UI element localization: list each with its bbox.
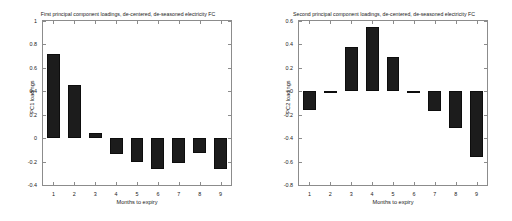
y-tick-mark bbox=[484, 21, 487, 22]
bars-container-pc2 bbox=[299, 21, 487, 185]
y-tick-mark bbox=[43, 115, 46, 116]
y-tick-label: 0.4 bbox=[30, 88, 38, 94]
bar bbox=[428, 91, 441, 110]
bar bbox=[47, 54, 60, 138]
x-tick-mark bbox=[158, 21, 159, 24]
y-tick-label: 0 bbox=[290, 88, 293, 94]
y-tick-mark bbox=[299, 162, 302, 163]
y-tick-label: -0.4 bbox=[28, 182, 37, 188]
x-tick-mark bbox=[74, 21, 75, 24]
x-tick-label: 2 bbox=[329, 191, 332, 197]
bar bbox=[387, 57, 400, 91]
bar bbox=[110, 138, 123, 154]
bar bbox=[407, 91, 420, 93]
y-tick-mark bbox=[484, 68, 487, 69]
y-axis-label-pc1: PC1 loadings bbox=[29, 67, 35, 127]
plot-area-pc2: 0.60.40.20-0.2-0.4-0.6-0.8123456789 bbox=[298, 20, 488, 186]
x-tick-mark bbox=[351, 21, 352, 24]
y-tick-mark bbox=[43, 44, 46, 45]
x-tick-mark bbox=[477, 182, 478, 185]
y-tick-mark bbox=[43, 162, 46, 163]
bar bbox=[214, 138, 227, 168]
x-tick-label: 7 bbox=[433, 191, 436, 197]
y-tick-mark bbox=[43, 138, 46, 139]
y-tick-label: 0.6 bbox=[30, 65, 38, 71]
y-tick-label: 1 bbox=[34, 18, 37, 24]
x-tick-label: 5 bbox=[392, 191, 395, 197]
y-tick-mark bbox=[228, 115, 231, 116]
y-tick-mark bbox=[299, 44, 302, 45]
bar bbox=[151, 138, 164, 169]
x-tick-mark bbox=[53, 21, 54, 24]
y-tick-mark bbox=[299, 185, 302, 186]
bar bbox=[89, 133, 102, 138]
x-tick-mark bbox=[74, 182, 75, 185]
y-tick-label: -0.6 bbox=[284, 159, 293, 165]
figure-canvas: First principal component loadings, de-c… bbox=[0, 0, 512, 221]
y-tick-mark bbox=[228, 21, 231, 22]
chart-panel-pc2: Second principal component loadings, de-… bbox=[256, 0, 512, 221]
bar bbox=[68, 85, 81, 138]
x-tick-mark bbox=[137, 21, 138, 24]
x-tick-label: 5 bbox=[136, 191, 139, 197]
y-tick-label: 0.2 bbox=[286, 65, 294, 71]
x-tick-mark bbox=[414, 182, 415, 185]
x-tick-mark bbox=[456, 21, 457, 24]
y-tick-mark bbox=[484, 91, 487, 92]
y-tick-mark bbox=[484, 44, 487, 45]
bars-container-pc1 bbox=[43, 21, 231, 185]
y-tick-mark bbox=[43, 21, 46, 22]
y-tick-mark bbox=[484, 162, 487, 163]
bar bbox=[324, 91, 337, 93]
x-tick-mark bbox=[158, 182, 159, 185]
y-tick-mark bbox=[299, 21, 302, 22]
bar bbox=[449, 91, 462, 128]
y-tick-label: 0.2 bbox=[30, 112, 38, 118]
x-tick-label: 3 bbox=[350, 191, 353, 197]
y-tick-mark bbox=[228, 138, 231, 139]
y-tick-mark bbox=[484, 185, 487, 186]
x-tick-label: 8 bbox=[454, 191, 457, 197]
x-tick-mark bbox=[309, 182, 310, 185]
bar bbox=[172, 138, 185, 163]
x-tick-mark bbox=[309, 21, 310, 24]
chart-panel-pc1: First principal component loadings, de-c… bbox=[0, 0, 256, 221]
x-tick-mark bbox=[179, 21, 180, 24]
x-tick-mark bbox=[200, 21, 201, 24]
x-tick-label: 4 bbox=[115, 191, 118, 197]
chart-title-pc1: First principal component loadings, de-c… bbox=[0, 11, 256, 17]
y-tick-mark bbox=[228, 91, 231, 92]
x-tick-label: 3 bbox=[94, 191, 97, 197]
y-tick-mark bbox=[299, 68, 302, 69]
plot-area-pc1: 10.80.60.40.20-0.2-0.4123456789 bbox=[42, 20, 232, 186]
y-tick-mark bbox=[299, 115, 302, 116]
bar bbox=[131, 138, 144, 161]
x-tick-mark bbox=[393, 21, 394, 24]
bar bbox=[193, 138, 206, 153]
y-tick-mark bbox=[43, 68, 46, 69]
x-tick-mark bbox=[116, 21, 117, 24]
x-tick-mark bbox=[372, 21, 373, 24]
x-tick-mark bbox=[137, 182, 138, 185]
x-tick-label: 9 bbox=[475, 191, 478, 197]
y-tick-mark bbox=[228, 44, 231, 45]
x-tick-mark bbox=[393, 182, 394, 185]
x-tick-label: 6 bbox=[156, 191, 159, 197]
x-tick-label: 4 bbox=[371, 191, 374, 197]
x-tick-mark bbox=[372, 182, 373, 185]
bar bbox=[303, 91, 316, 110]
x-tick-mark bbox=[330, 21, 331, 24]
y-tick-label: -0.4 bbox=[284, 135, 293, 141]
y-tick-mark bbox=[484, 115, 487, 116]
x-tick-mark bbox=[221, 21, 222, 24]
x-tick-mark bbox=[435, 182, 436, 185]
x-tick-mark bbox=[330, 182, 331, 185]
x-tick-label: 7 bbox=[177, 191, 180, 197]
y-tick-mark bbox=[43, 185, 46, 186]
y-tick-label: 0.8 bbox=[30, 41, 38, 47]
y-tick-label: -0.2 bbox=[284, 112, 293, 118]
x-tick-label: 1 bbox=[308, 191, 311, 197]
x-tick-mark bbox=[95, 182, 96, 185]
x-tick-mark bbox=[179, 182, 180, 185]
y-axis-label-pc2: PC2 loadings bbox=[285, 67, 291, 127]
